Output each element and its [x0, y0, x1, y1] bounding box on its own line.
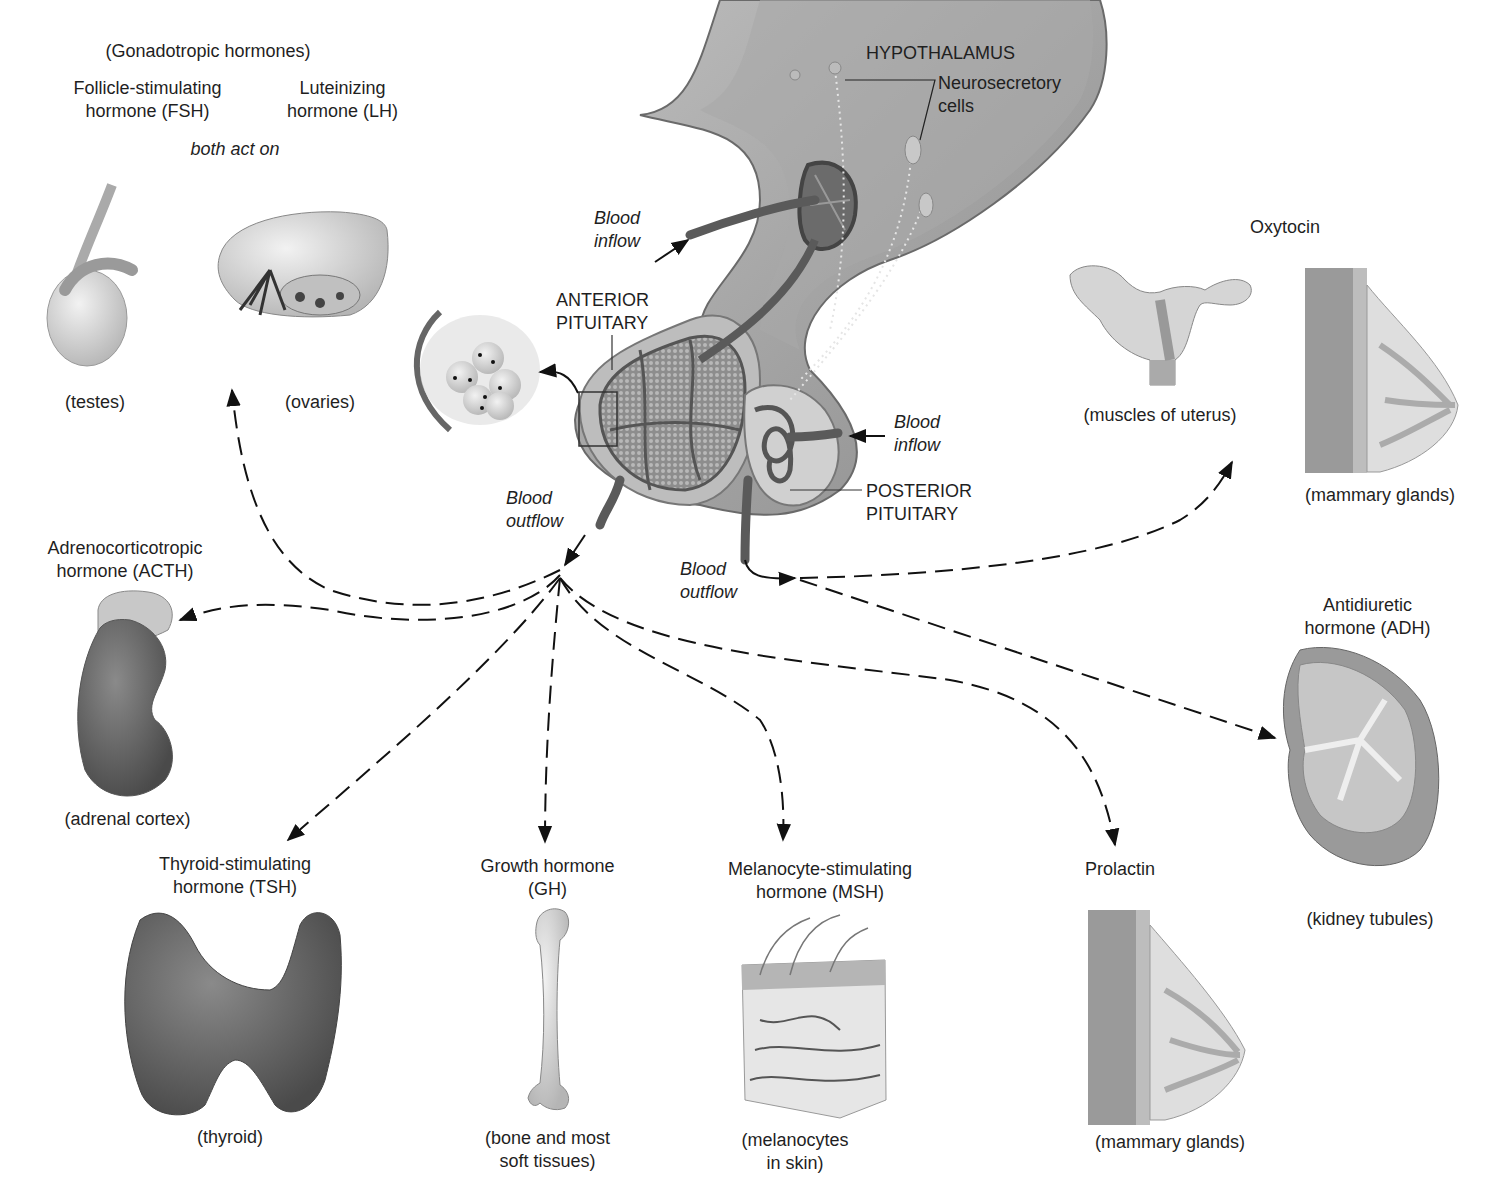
blood-outflow-posterior-label: Blood outflow — [680, 558, 737, 604]
ovaries-target-label: (ovaries) — [260, 391, 380, 414]
kidney-section-illustration — [1283, 647, 1438, 865]
ovary-illustration — [218, 212, 388, 317]
prolactin-target-label: (mammary glands) — [1070, 1131, 1270, 1154]
skin-block-illustration — [742, 915, 886, 1118]
breast-illustration — [1305, 268, 1458, 473]
mammary-target-label: (mammary glands) — [1280, 484, 1480, 507]
posterior-pituitary-label: POSTERIOR PITUITARY — [866, 480, 972, 526]
gh-label: Growth hormone (GH) — [460, 855, 635, 901]
neurosecretory-cells-label: Neurosecretory cells — [938, 72, 1061, 118]
both-act-on-note: both act on — [160, 138, 310, 161]
fsh-label: Follicle-stimulating hormone (FSH) — [50, 77, 245, 123]
tsh-label: Thyroid-stimulating hormone (TSH) — [130, 853, 340, 899]
adrenal-cortex-target-label: (adrenal cortex) — [40, 808, 215, 831]
adh-label: Antidiuretic hormone (ADH) — [1280, 594, 1455, 640]
acth-label: Adrenocorticotropic hormone (ACTH) — [20, 537, 230, 583]
msh-label: Melanocyte-stimulating hormone (MSH) — [700, 858, 940, 904]
anterior-pituitary-label: ANTERIOR PITUITARY — [556, 289, 649, 335]
breast-illustration — [1088, 910, 1245, 1125]
kidney-adrenal-illustration — [78, 591, 173, 796]
testis-illustration — [47, 185, 132, 366]
prolactin-label: Prolactin — [1060, 858, 1180, 881]
lh-label: Luteinizing hormone (LH) — [265, 77, 420, 123]
msh-target-label: (melanocytes in skin) — [730, 1129, 860, 1175]
kidney-tubules-target-label: (kidney tubules) — [1285, 908, 1455, 931]
femur-bone-illustration — [528, 909, 569, 1110]
thyroid-target-label: (thyroid) — [170, 1126, 290, 1149]
oxytocin-label: Oxytocin — [1225, 216, 1345, 239]
thyroid-illustration — [125, 913, 342, 1115]
uterus-target-label: (muscles of uterus) — [1060, 404, 1260, 427]
blood-inflow-anterior-label: Blood inflow — [594, 207, 640, 253]
testes-target-label: (testes) — [40, 391, 150, 414]
gh-target-label: (bone and most soft tissues) — [465, 1127, 630, 1173]
cell-cluster-inset — [417, 312, 578, 430]
diagram-canvas — [0, 0, 1486, 1197]
blood-outflow-anterior-label: Blood outflow — [506, 487, 563, 533]
uterus-illustration — [1070, 266, 1251, 385]
gonadotropic-group-label: (Gonadotropic hormones) — [78, 40, 338, 63]
blood-inflow-posterior-label: Blood inflow — [894, 411, 940, 457]
hypothalamus-label: HYPOTHALAMUS — [866, 42, 1015, 65]
